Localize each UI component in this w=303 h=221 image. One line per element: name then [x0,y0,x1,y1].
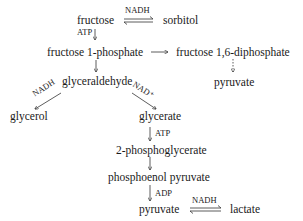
node-pyruvate-top: pyruvate [214,77,254,89]
node-fructose-16-diphosphate: fructose 1,6-diphosphate [176,47,290,59]
node-phosphoenol-pyruvate: phosphoenol pyruvate [108,172,210,184]
reversible-arrow-fructose-sorbitol [124,17,153,25]
node-fructose: fructose [77,15,114,27]
cofactor-nadh-lactate: NADH [192,196,217,205]
node-pyruvate-bottom: pyruvate [139,204,179,216]
node-fructose-1-phosphate: fructose 1-phosphate [47,47,143,59]
node-lactate: lactate [230,204,260,216]
node-glyceraldehyde: glyceraldehyde [62,76,132,88]
cofactor-atp-fructose: ATP [77,28,92,37]
reversible-arrow-pyruvate-lactate [190,206,221,214]
cofactor-adp-pep: ADP [155,189,172,198]
node-2-phosphoglycerate: 2-phosphoglycerate [116,145,207,157]
node-sorbitol: sorbitol [163,15,198,27]
node-glycerol: glycerol [10,111,48,123]
cofactor-atp-glycerate: ATP [155,129,170,138]
node-glycerate: glycerate [139,111,181,123]
cofactor-nadh-sorbitol: NADH [125,6,150,15]
